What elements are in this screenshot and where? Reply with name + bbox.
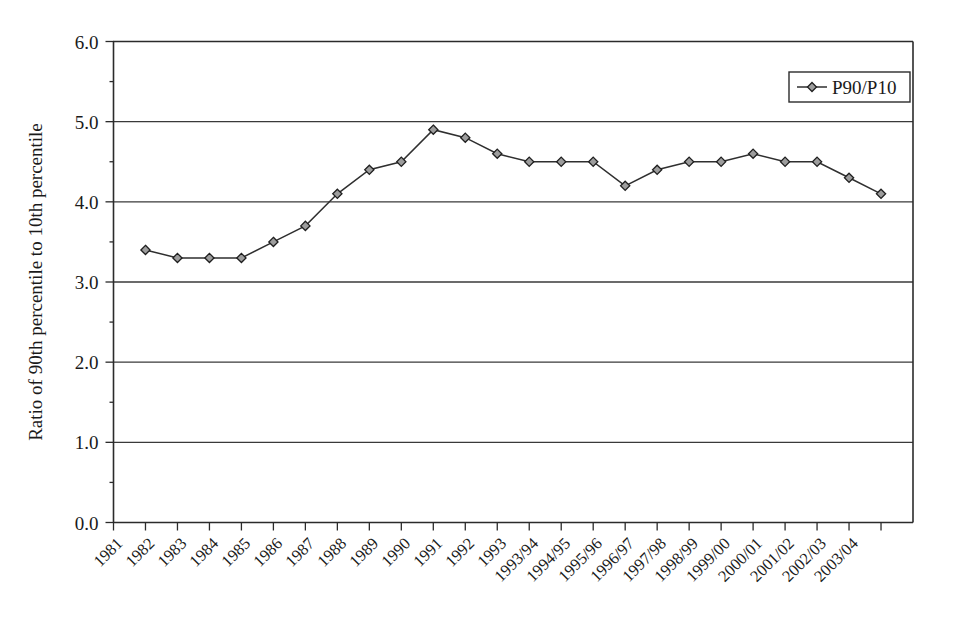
- data-point-marker: [844, 173, 853, 182]
- data-point-marker: [525, 157, 534, 166]
- y-tick-marks-group: [106, 42, 114, 523]
- data-point-marker: [653, 165, 662, 174]
- x-tick-label: 1981: [90, 534, 127, 571]
- data-point-marker: [876, 189, 885, 198]
- data-point-marker: [237, 253, 246, 262]
- x-tick-label: 1991: [409, 534, 446, 571]
- series-p90-p10: [141, 125, 886, 262]
- x-tick-label: 1992: [441, 534, 478, 571]
- y-tick-label: 2.0: [75, 352, 99, 373]
- x-tick-label: 1986: [249, 534, 286, 571]
- y-tick-label: 6.0: [75, 32, 99, 53]
- series-markers-group: [141, 125, 886, 262]
- series-line-path: [145, 130, 881, 258]
- data-point-marker: [749, 149, 758, 158]
- x-tick-label: 1988: [313, 534, 350, 571]
- y-axis-title-group: Ratio of 90th percentile to 10th percent…: [25, 123, 46, 441]
- data-point-marker: [173, 253, 182, 262]
- x-tick-label: 1989: [345, 534, 382, 571]
- chart-container: 0.01.02.03.04.05.06.0 198119821983198419…: [0, 0, 956, 624]
- y-tick-label: 5.0: [75, 112, 99, 133]
- data-point-marker: [461, 133, 470, 142]
- x-tick-label: 1983: [154, 534, 191, 571]
- y-axis-title: Ratio of 90th percentile to 10th percent…: [25, 123, 46, 441]
- data-point-marker: [205, 253, 214, 262]
- data-point-marker: [269, 237, 278, 246]
- y-tick-label: 1.0: [75, 432, 99, 453]
- data-point-marker: [685, 157, 694, 166]
- data-point-marker: [557, 157, 566, 166]
- data-point-marker: [717, 157, 726, 166]
- y-tick-labels-group: 0.01.02.03.04.05.06.0: [75, 32, 99, 534]
- x-tick-label: 1984: [185, 534, 222, 571]
- gridlines-group: [114, 122, 914, 443]
- y-tick-label: 3.0: [75, 272, 99, 293]
- x-tick-labels-group: 1981198219831984198519861987198819891990…: [90, 534, 862, 586]
- x-tick-label: 1982: [122, 534, 159, 571]
- y-tick-label: 0.0: [75, 513, 99, 534]
- y-tick-label: 4.0: [75, 192, 99, 213]
- line-chart: 0.01.02.03.04.05.06.0 198119821983198419…: [0, 0, 956, 624]
- data-point-marker: [780, 157, 789, 166]
- chart-legend[interactable]: P90/P10: [789, 72, 910, 102]
- data-point-marker: [812, 157, 821, 166]
- x-tick-label: 1985: [217, 534, 254, 571]
- x-tick-label: 1990: [377, 534, 414, 571]
- x-tick-label: 1987: [281, 534, 318, 571]
- legend-entry-label: P90/P10: [832, 77, 896, 98]
- x-tick-marks-group: [114, 523, 882, 531]
- data-point-marker: [141, 245, 150, 254]
- data-point-marker: [493, 149, 502, 158]
